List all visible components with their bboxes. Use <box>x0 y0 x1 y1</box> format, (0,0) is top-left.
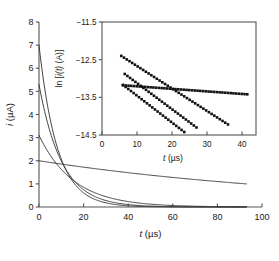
inset-data-point <box>160 87 163 90</box>
figure-container: 012345678020406080100t (µs)i (µA)−14.5−1… <box>0 0 279 261</box>
inset-data-point <box>172 88 175 91</box>
inset-data-point <box>147 86 150 89</box>
inset-data-point <box>133 85 136 88</box>
main-ylabel-text: i (µA) <box>4 103 15 126</box>
inset-data-point <box>150 92 153 95</box>
inset-data-point <box>155 96 158 99</box>
main-xlabel-text: t (µs) <box>140 228 162 239</box>
inset-data-point <box>149 86 152 89</box>
inset-data-point <box>130 85 133 88</box>
inset-axes: −14.5−13.5−12.5−11.5010203040t (µs)ln [i… <box>54 18 257 163</box>
inset-data-point <box>178 127 181 130</box>
main-y-tick-label: 4 <box>28 110 33 120</box>
inset-data-point <box>124 86 127 89</box>
inset-data-point <box>159 112 162 115</box>
inset-data-point <box>139 67 142 70</box>
inset-data-point <box>232 92 235 95</box>
inset-ylabel-suffix: (A)] <box>54 50 64 66</box>
inset-data-point <box>153 76 156 79</box>
inset-data-point <box>177 88 180 91</box>
inset-x-tick-label: 40 <box>237 140 247 149</box>
inset-data-point <box>156 77 159 80</box>
inset-data-point <box>218 91 221 94</box>
inset-data-point <box>128 60 131 63</box>
main-y-tick-label: 2 <box>28 156 33 166</box>
inset-y-tick-label: −14.5 <box>76 131 97 140</box>
inset-data-point <box>129 77 132 80</box>
inset-data-point <box>162 114 165 117</box>
inset-data-point <box>120 55 123 58</box>
inset-data-point <box>197 104 200 107</box>
main-y-tick-label: 0 <box>28 202 33 212</box>
inset-data-point <box>177 112 180 115</box>
inset-data-point <box>161 100 164 103</box>
inset-x-tick-label: 0 <box>100 140 105 149</box>
inset-data-point <box>166 87 169 90</box>
main-y-tick-label: 1 <box>28 179 33 189</box>
inset-data-point <box>172 123 175 126</box>
inset-data-point <box>235 92 238 95</box>
main-curve-decay-3 <box>39 135 246 207</box>
inset-data-point <box>131 79 134 82</box>
inset-data-point <box>191 89 194 92</box>
inset-data-point <box>240 93 243 96</box>
inset-data-point <box>183 131 186 134</box>
inset-data-point <box>134 81 137 84</box>
inset-data-point <box>221 120 224 123</box>
inset-data-point <box>224 91 227 94</box>
inset-data-point <box>243 93 246 96</box>
inset-data-point <box>140 98 143 101</box>
inset-xlabel-text: t (µs) <box>163 153 183 163</box>
inset-xlabel: t (µs) <box>163 153 183 163</box>
inset-data-point <box>208 111 211 114</box>
main-y-tick-label: 5 <box>28 87 33 97</box>
inset-data-point <box>147 72 150 75</box>
inset-data-point <box>193 89 196 92</box>
inset-background <box>102 22 257 136</box>
main-x-tick-label: 0 <box>36 212 41 222</box>
inset-data-point <box>155 86 158 89</box>
inset-data-point <box>163 87 166 90</box>
inset-data-point <box>164 83 167 86</box>
inset-data-point <box>163 102 166 105</box>
inset-data-point <box>216 116 219 119</box>
inset-data-point <box>158 87 161 90</box>
inset-data-point <box>158 98 161 101</box>
inset-data-point <box>187 120 190 123</box>
inset-data-point <box>188 99 191 102</box>
inset-data-point <box>134 63 137 66</box>
inset-data-point <box>185 118 188 121</box>
inset-data-point <box>213 114 216 117</box>
inset-data-point <box>145 89 148 92</box>
inset-data-point <box>126 75 129 78</box>
inset-ylabel-prefix: ln [ <box>54 75 64 87</box>
inset-x-tick-label: 30 <box>202 140 212 149</box>
inset-data-point <box>125 58 128 61</box>
inset-data-point <box>210 90 213 93</box>
inset-data-point <box>161 81 164 84</box>
inset-data-point <box>135 94 138 97</box>
inset-data-point <box>202 107 205 110</box>
inset-data-point <box>130 90 133 93</box>
inset-data-point <box>185 89 188 92</box>
inset-data-point <box>193 124 196 127</box>
inset-data-point <box>180 93 183 96</box>
inset-data-point <box>154 108 157 111</box>
inset-data-point <box>150 74 153 77</box>
inset-data-point <box>142 69 145 72</box>
inset-data-point <box>145 70 148 73</box>
inset-data-point <box>153 94 156 97</box>
main-y-tick-label: 7 <box>28 40 33 50</box>
inset-data-point <box>137 83 140 86</box>
inset-data-point <box>175 125 178 128</box>
main-ylabel: i (µA) <box>4 103 15 126</box>
inset-ylabel-text: ln [i(t) (A)] <box>54 50 64 88</box>
inset-data-point <box>131 62 134 65</box>
inset-data-point <box>127 88 130 91</box>
main-y-tick-label: 6 <box>28 63 33 73</box>
inset-data-point <box>147 91 150 94</box>
inset-data-point <box>142 87 145 90</box>
inset-data-point <box>207 90 210 93</box>
inset-data-point <box>229 92 232 95</box>
inset-data-point <box>169 106 172 109</box>
